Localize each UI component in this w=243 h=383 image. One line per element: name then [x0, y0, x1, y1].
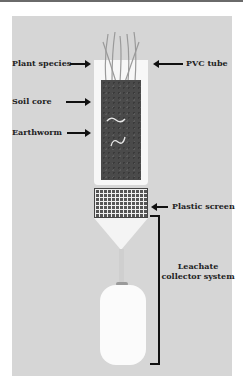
label-plant-species: Plant species	[12, 59, 71, 68]
arrow-plastic-screen	[155, 206, 168, 208]
leachate-bracket	[150, 215, 160, 365]
arrow-plant-species	[70, 63, 87, 65]
plant-icon	[100, 32, 142, 82]
label-earthworm: Earthworm	[12, 128, 62, 137]
earthworm-icon	[110, 136, 126, 148]
plastic-screen	[94, 188, 148, 218]
collection-bottle	[100, 285, 146, 365]
label-leachate-line2: collector system	[161, 272, 235, 281]
label-pvc-tube: PVC tube	[186, 59, 228, 68]
earthworm-icon	[106, 116, 126, 124]
funnel	[94, 218, 148, 250]
arrow-earthworm	[67, 132, 87, 134]
drain-pipe	[119, 249, 124, 283]
arrow-soil-core	[66, 101, 87, 103]
arrow-pvc-tube	[157, 63, 183, 65]
soil-core	[101, 80, 141, 180]
label-leachate-line1: Leachate	[163, 262, 233, 271]
label-plastic-screen: Plastic screen	[172, 202, 235, 211]
label-soil-core: Soil core	[12, 97, 52, 106]
top-rule	[0, 0, 243, 2]
